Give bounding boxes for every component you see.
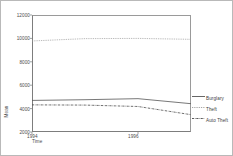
legend-label: Burglary — [206, 96, 224, 101]
chart-screenshot: 12000 10000 8000 6000 4000 2000 1994 199… — [0, 0, 233, 156]
legend-key-burglary-icon — [192, 95, 205, 98]
legend-item-burglary[interactable]: Burglary — [192, 93, 233, 104]
legend-item-auto-theft[interactable]: Auto Theft — [192, 115, 233, 126]
data-series-group — [32, 38, 191, 114]
legend-key-theft-icon — [192, 106, 205, 109]
legend-label: Theft — [206, 107, 217, 112]
legend-label: Auto Theft — [206, 118, 228, 123]
chart-lines — [1, 1, 233, 156]
axis-ticks — [30, 15, 138, 134]
series-line-burglary — [32, 99, 191, 104]
series-line-auto-theft — [32, 105, 191, 115]
legend-item-theft[interactable]: Theft — [192, 104, 233, 115]
legend-key-auto-theft-icon — [192, 117, 205, 120]
legend: Burglary Theft Auto Theft — [192, 93, 233, 126]
series-line-theft — [32, 38, 191, 41]
